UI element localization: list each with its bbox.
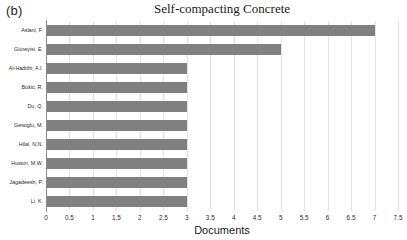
bar: [46, 177, 187, 189]
x-axis-tick-label: 0.5: [65, 214, 74, 221]
x-axis-title: Documents: [46, 224, 398, 236]
bar: [46, 63, 187, 75]
bar-row: [46, 25, 398, 37]
y-axis-tick-label: Jagadeesh, P.: [0, 180, 43, 185]
y-axis-tick-label: Hussin, M.W.: [0, 161, 43, 166]
x-axis-tick-label: 4: [232, 214, 236, 221]
x-axis-tick-label: 3: [185, 214, 189, 221]
bar-row: [46, 196, 398, 208]
x-axis-tick-label: 5: [279, 214, 283, 221]
bar-row: [46, 82, 398, 94]
bar-row: [46, 139, 398, 151]
y-axis-tick-label: Gesoglu, M.: [0, 123, 43, 128]
bar-row: [46, 63, 398, 75]
y-axis-tick-label: Bušić, R.: [0, 85, 43, 90]
bar: [46, 196, 187, 208]
bar: [46, 82, 187, 94]
bar: [46, 158, 187, 170]
x-axis-tick-label: 5.5: [300, 214, 309, 221]
bar-row: [46, 120, 398, 132]
bar: [46, 101, 187, 113]
y-axis-tick-label: Li, K.: [0, 199, 43, 204]
bar-row: [46, 177, 398, 189]
bar: [46, 25, 375, 37]
x-axis-tick-label: 2: [138, 214, 142, 221]
y-axis-tick-label: Güneyisi, E.: [0, 47, 43, 52]
chart-title: Self-compacting Concrete: [46, 1, 398, 17]
y-axis-tick-label: Du, Q.: [0, 104, 43, 109]
x-axis-tick-label: 6.5: [347, 214, 356, 221]
gridline: [398, 21, 399, 211]
x-axis-tick-label: 3.5: [206, 214, 215, 221]
bar: [46, 120, 187, 132]
bar-row: [46, 158, 398, 170]
y-axis-line: [46, 20, 47, 212]
panel-label: (b): [6, 3, 23, 18]
y-axis-tick-label: Hilal, N.N.: [0, 142, 43, 147]
y-axis-tick-label: Al-Hadithi, A.I.: [0, 66, 43, 71]
x-axis-tick-label: 7.5: [394, 214, 403, 221]
bar-row: [46, 44, 398, 56]
x-axis-tick-label: 1: [91, 214, 95, 221]
x-axis-tick-label: 2.5: [159, 214, 168, 221]
x-axis-tick-label: 6: [326, 214, 330, 221]
plot-area: [46, 21, 398, 211]
x-axis-tick-label: 1.5: [112, 214, 121, 221]
y-axis-tick-label: Aslani, F.: [0, 28, 43, 33]
bar-row: [46, 101, 398, 113]
bar: [46, 44, 281, 56]
x-axis-tick-label: 4.5: [253, 214, 262, 221]
chart-figure: (b) Self-compacting Concrete Aslani, F.G…: [0, 0, 407, 240]
x-axis-tick-label: 0: [44, 214, 48, 221]
x-axis-tick-label: 7: [373, 214, 377, 221]
bar: [46, 139, 187, 151]
